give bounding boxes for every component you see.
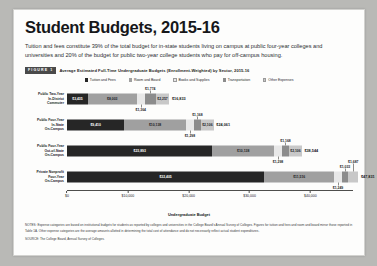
segment-value-label: $2,106 bbox=[290, 149, 300, 152]
stacked-bar[interactable]: $32,405$11,516$1,249$1,033$1,687 bbox=[67, 171, 358, 182]
chart-row: Public Four-YearIn-StateOn-Campus$9,410$… bbox=[25, 112, 353, 138]
callout-leader-line bbox=[190, 130, 191, 133]
page-subtitle: Tuition and fees constitute 39% of the t… bbox=[25, 42, 347, 60]
x-axis: $0$10,000$20,000$30,000$40,000 bbox=[67, 190, 353, 203]
legend-swatch-icon bbox=[85, 78, 88, 81]
row-total-label: $47,831 bbox=[361, 175, 375, 179]
row-total-label: $38,544 bbox=[304, 149, 318, 153]
row-total-label: $24,061 bbox=[216, 123, 230, 127]
bar-segment[interactable]: $8,003 bbox=[88, 93, 137, 104]
segment-value-label: $9,410 bbox=[90, 123, 100, 126]
stacked-bar[interactable]: $23,893$10,138$1,298$1,168$2,106 bbox=[67, 145, 302, 156]
bar-segment[interactable]: $2,106 bbox=[201, 119, 214, 130]
chart-row: Public Four-YearOut-of-StateOn-Campus$23… bbox=[25, 138, 353, 164]
stacked-bar[interactable]: $9,410$10,138$1,298$1,168$2,106 bbox=[67, 119, 214, 130]
segment-value-label: $23,893 bbox=[134, 149, 146, 152]
bar-segment[interactable]: $1,298 bbox=[274, 145, 282, 156]
report-page-card: Student Budgets, 2015-16 Tuition and fee… bbox=[13, 9, 365, 256]
legend-item-0: Tuition and Fees bbox=[85, 78, 116, 82]
legend-swatch-icon bbox=[263, 78, 266, 81]
callout-leader-line bbox=[197, 116, 198, 119]
figure-caption-row: FIGURE 1 Average Estimated Full-Time Und… bbox=[25, 67, 353, 74]
segment-value-label: $10,138 bbox=[237, 149, 249, 152]
legend-swatch-icon bbox=[129, 78, 132, 81]
bar-segment[interactable]: $1,168 bbox=[194, 119, 201, 130]
legend-swatch-icon bbox=[173, 78, 176, 81]
stacked-bar[interactable]: $3,435$8,003$1,364$1,774$2,257 bbox=[67, 93, 169, 104]
callout-leader-line bbox=[278, 156, 279, 159]
row-category-label: Public Two-YearIn-DistrictCommuter bbox=[25, 92, 67, 105]
bar-segment[interactable]: $1,364 bbox=[137, 93, 145, 104]
callout-leader-line bbox=[345, 168, 346, 171]
bar-segment[interactable]: $32,405 bbox=[67, 171, 264, 182]
bar-segment[interactable]: $1,249 bbox=[334, 171, 342, 182]
segment-value-label: $10,138 bbox=[149, 123, 161, 126]
bar-segment[interactable]: $1,298 bbox=[186, 119, 194, 130]
bar-segment[interactable]: $1,774 bbox=[145, 93, 156, 104]
x-axis-tick: $0 bbox=[65, 191, 69, 198]
bar-segment[interactable]: $11,516 bbox=[264, 171, 334, 182]
page-title: Student Budgets, 2015-16 bbox=[25, 19, 353, 36]
row-track: $3,435$8,003$1,364$1,774$2,257$16,833 bbox=[67, 86, 353, 112]
callout-leader-line bbox=[150, 90, 151, 93]
bar-segment[interactable]: $2,106 bbox=[289, 145, 302, 156]
segment-value-label: $32,405 bbox=[159, 175, 171, 178]
segment-value-label: $11,516 bbox=[293, 175, 305, 178]
chart-row: Private NonprofitFour-YearOn-Campus$32,4… bbox=[25, 164, 353, 190]
legend-item-3: Transportation bbox=[223, 78, 251, 82]
row-total-label: $16,833 bbox=[172, 97, 186, 101]
x-axis-title: Undergraduate Budget bbox=[25, 212, 353, 217]
segment-value-label: $2,106 bbox=[202, 123, 212, 126]
row-track: $32,405$11,516$1,249$1,033$1,687$47,831 bbox=[67, 164, 353, 190]
callout-leader-line bbox=[285, 142, 286, 145]
x-axis-tick: $40,000 bbox=[304, 191, 317, 198]
legend-swatch-icon bbox=[223, 78, 226, 81]
segment-value-label: $8,003 bbox=[107, 97, 117, 100]
callout-leader-line bbox=[353, 163, 354, 171]
legend-item-2: Books and Supplies bbox=[173, 78, 209, 82]
legend-label: Room and Board bbox=[134, 78, 160, 82]
figure-caption: Average Estimated Full-Time Undergraduat… bbox=[59, 68, 249, 73]
chart-row: Public Two-YearIn-DistrictCommuter$3,435… bbox=[25, 86, 353, 112]
x-axis-tick: $10,000 bbox=[122, 191, 135, 198]
row-track: $23,893$10,138$1,298$1,168$2,106$38,544 bbox=[67, 138, 353, 164]
segment-value-label: $2,257 bbox=[157, 97, 167, 100]
chart-source: SOURCE: The College Board, Annual Survey… bbox=[25, 237, 353, 241]
screenshot-root: Student Budgets, 2015-16 Tuition and fee… bbox=[0, 0, 377, 266]
x-axis-tick: $30,000 bbox=[243, 191, 256, 198]
legend-label: Books and Supplies bbox=[179, 78, 210, 82]
stacked-bar-chart: Public Two-YearIn-DistrictCommuter$3,435… bbox=[25, 86, 353, 190]
row-category-label: Public Four-YearIn-StateOn-Campus bbox=[25, 118, 67, 131]
chart-legend: Tuition and FeesRoom and BoardBooks and … bbox=[25, 78, 353, 82]
row-category-label: Public Four-YearOut-of-StateOn-Campus bbox=[25, 144, 67, 157]
bar-segment[interactable]: $10,138 bbox=[212, 145, 274, 156]
row-track: $9,410$10,138$1,298$1,168$2,106$24,061 bbox=[67, 112, 353, 138]
bar-segment[interactable]: $9,410 bbox=[67, 119, 124, 130]
legend-item-1: Room and Board bbox=[129, 78, 161, 82]
callout-leader-line bbox=[338, 182, 339, 185]
legend-label: Tuition and Fees bbox=[90, 78, 116, 82]
bar-segment[interactable]: $3,435 bbox=[67, 93, 88, 104]
chart-rows: Public Two-YearIn-DistrictCommuter$3,435… bbox=[25, 86, 353, 190]
row-category-label: Private NonprofitFour-YearOn-Campus bbox=[25, 170, 67, 183]
bar-segment[interactable]: $1,168 bbox=[282, 145, 289, 156]
figure-badge: FIGURE 1 bbox=[25, 67, 56, 74]
callout-leader-line bbox=[141, 104, 142, 107]
bar-segment[interactable]: $23,893 bbox=[67, 145, 212, 156]
bar-segment[interactable]: $10,138 bbox=[124, 119, 186, 130]
legend-item-4: Other Expenses bbox=[263, 78, 293, 82]
legend-label: Other Expenses bbox=[268, 78, 293, 82]
chart-notes: NOTES: Expense categories are based on i… bbox=[25, 223, 353, 233]
segment-value-label: $3,435 bbox=[72, 97, 82, 100]
legend-label: Transportation bbox=[228, 78, 250, 82]
bar-segment[interactable]: $2,257 bbox=[156, 93, 170, 104]
x-axis-tick: $20,000 bbox=[182, 191, 195, 198]
bar-segment[interactable]: $1,687 bbox=[348, 171, 358, 182]
